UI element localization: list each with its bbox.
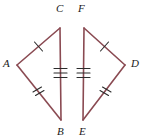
vertex-label-c: C [56, 3, 63, 14]
vertex-label-e: E [79, 126, 86, 137]
segment-fe [83, 28, 84, 120]
geometry-diagram: A B C D E F [0, 0, 146, 140]
triangles-figure [0, 0, 146, 140]
vertex-label-f: F [78, 3, 85, 14]
vertex-label-a: A [3, 58, 10, 69]
segment-cb [60, 28, 61, 120]
vertex-label-b: B [57, 126, 64, 137]
triangle-def [83, 28, 125, 120]
triangle-abc [17, 28, 61, 120]
vertex-label-d: D [131, 58, 139, 69]
